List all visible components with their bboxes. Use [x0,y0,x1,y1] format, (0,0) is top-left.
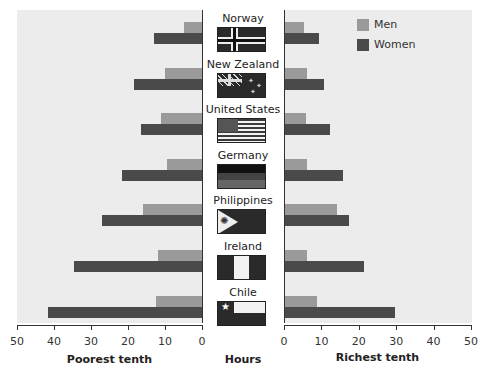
rich-x-axis-line [284,325,472,326]
center-axis-title: Hours [202,353,284,366]
rich-x-tick [284,325,285,330]
rich-x-tick [359,325,360,330]
bar-women-poor [48,307,202,318]
rich-x-tick-label: 20 [347,335,371,348]
bar-women-poor [154,33,202,44]
flag-norway-icon [217,27,266,52]
bar-men-poor [156,296,202,307]
country-label: Philippines [202,194,284,207]
rich-x-tick-label: 0 [272,335,296,348]
bar-women-rich [285,33,319,44]
poor-x-tick-label: 50 [5,335,29,348]
bar-men-rich [285,296,317,307]
bar-women-poor [122,170,202,181]
poor-x-tick [91,325,92,330]
country-label: Germany [202,149,284,162]
country-label: New Zealand [202,58,284,71]
country-label: Norway [202,12,284,25]
bar-men-rich [285,22,304,33]
rich-x-tick [321,325,322,330]
poor-x-tick [165,325,166,330]
bar-women-poor [102,215,202,226]
bar-men-rich [285,68,307,79]
flag-chile-icon: ★ [217,301,266,326]
bar-women-rich [285,215,349,226]
country-label: United States [202,103,284,116]
poor-x-tick [128,325,129,330]
flag-philippines-icon: ✺ [217,209,266,234]
bar-men-rich [285,204,337,215]
poor-x-tick-label: 30 [79,335,103,348]
flag-united-states-icon [217,118,266,143]
bar-men-poor [143,204,202,215]
bar-men-rich [285,159,307,170]
poor-x-tick [202,325,203,330]
bar-men-poor [158,250,202,261]
bar-women-rich [285,79,324,90]
legend-women-swatch [357,39,369,51]
poor-x-tick-label: 10 [153,335,177,348]
legend-men-label: Men [374,18,397,31]
legend-men-swatch [357,19,369,31]
bar-men-rich [285,113,306,124]
bar-men-rich [285,250,307,261]
rich-x-tick [396,325,397,330]
bar-women-poor [74,261,202,272]
bar-women-rich [285,124,330,135]
bar-men-poor [184,22,203,33]
country-label: Chile [202,286,284,299]
flag-ireland-icon [217,255,266,280]
bar-women-poor [134,79,202,90]
flag-new-zealand-icon: ✦✦✦ [217,73,266,98]
poor-x-tick [17,325,18,330]
rich-x-tick-label: 50 [459,335,481,348]
bar-men-poor [167,159,202,170]
rich-x-tick [434,325,435,330]
bar-men-poor [165,68,202,79]
bar-women-rich [285,307,395,318]
flag-germany-icon [217,164,266,189]
bar-women-rich [285,261,364,272]
rich-x-tick [471,325,472,330]
left-axis-title: Poorest tenth [17,353,202,366]
richest-tenth-panel [284,10,472,323]
legend-women-label: Women [374,38,415,51]
rich-x-tick-label: 10 [309,335,333,348]
bar-women-rich [285,170,343,181]
rich-x-tick-label: 30 [384,335,408,348]
country-label: Ireland [202,240,284,253]
poor-x-tick-label: 0 [190,335,214,348]
poor-x-tick [54,325,55,330]
bar-women-poor [141,124,202,135]
bar-men-poor [161,113,202,124]
right-axis-title: Richest tenth [284,351,471,364]
poor-x-tick-label: 40 [42,335,66,348]
rich-x-tick-label: 40 [422,335,446,348]
poor-x-tick-label: 20 [116,335,140,348]
poor-x-axis-line [17,325,203,326]
